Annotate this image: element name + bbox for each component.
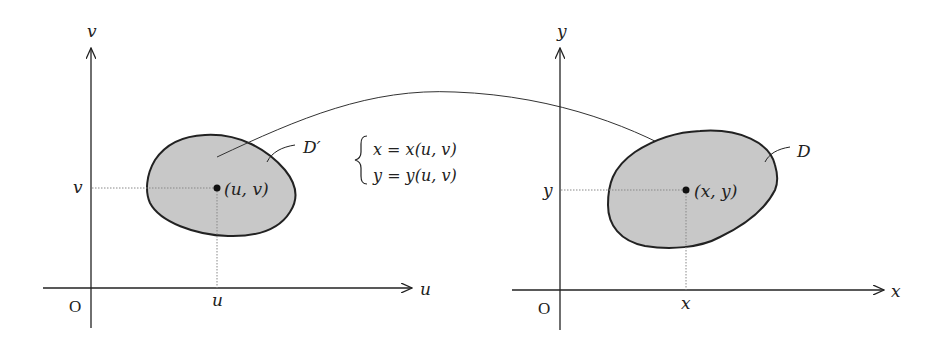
mapping-diagram: v u O u v (u, v) D′ x = x(u, v) y = y(u,… — [0, 0, 945, 345]
region-label-d: D — [796, 141, 811, 161]
origin-label-right: O — [538, 299, 550, 318]
y-axis-label: y — [556, 21, 567, 41]
point-xy — [683, 187, 690, 194]
tick-label-v: v — [73, 177, 83, 197]
transformation-equations: x = x(u, v) y = y(u, v) — [355, 136, 457, 185]
region-d — [608, 131, 777, 248]
region-d-prime — [147, 135, 295, 236]
right-plane: y x O x y (x, y) D — [512, 21, 901, 330]
point-uv — [214, 185, 221, 192]
region-label-d-prime: D′ — [302, 137, 321, 157]
u-axis-label: u — [420, 279, 431, 299]
tick-label-x: x — [681, 293, 691, 313]
x-axis-label: x — [891, 281, 901, 301]
equation-x: x = x(u, v) — [373, 140, 457, 159]
point-label-uv: (u, v) — [224, 179, 269, 199]
v-axis-label: v — [87, 21, 97, 41]
equation-y: y = y(u, v) — [372, 166, 457, 185]
tick-label-y: y — [542, 180, 553, 200]
tick-label-u: u — [212, 290, 223, 310]
origin-label-left: O — [69, 297, 81, 316]
left-brace — [355, 136, 367, 184]
point-label-xy: (x, y) — [694, 181, 737, 201]
